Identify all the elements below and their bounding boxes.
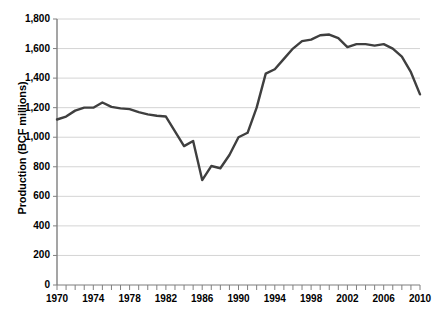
x-tick-label: 1986	[182, 294, 222, 304]
y-tick-label: 600	[0, 191, 50, 201]
x-tick-label: 1978	[110, 294, 150, 304]
y-tick-label: 800	[0, 162, 50, 172]
y-tick-label: 1,600	[0, 44, 50, 54]
x-tick-label: 2010	[400, 294, 436, 304]
x-tick-label: 1982	[146, 294, 186, 304]
y-tick-label: 200	[0, 250, 50, 260]
x-tick-label: 1974	[73, 294, 113, 304]
y-tick-label: 1,000	[0, 132, 50, 142]
x-tick-label: 1994	[255, 294, 295, 304]
x-tick-label: 1998	[291, 294, 331, 304]
x-tick-label: 2002	[327, 294, 367, 304]
y-tick-label: 1,800	[0, 14, 50, 24]
y-tick-label: 0	[0, 280, 50, 290]
x-axis-ticks	[57, 285, 420, 290]
y-tick-label: 400	[0, 221, 50, 231]
y-tick-label: 1,400	[0, 73, 50, 83]
x-tick-label: 1990	[219, 294, 259, 304]
x-tick-label: 1970	[37, 294, 77, 304]
x-tick-label: 2006	[364, 294, 404, 304]
y-tick-label: 1,200	[0, 103, 50, 113]
